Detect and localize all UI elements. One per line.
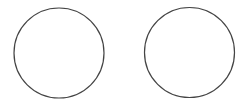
left-circle xyxy=(14,8,104,98)
right-circle xyxy=(145,8,235,98)
diagram-canvas xyxy=(0,0,251,107)
